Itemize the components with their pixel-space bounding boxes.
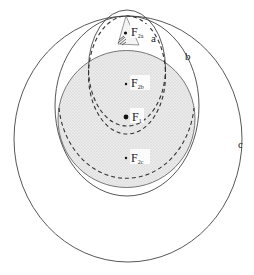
f1-label-sub: 1	[139, 118, 142, 124]
focus-f2c-dot	[125, 157, 127, 159]
focus-f1-dot	[124, 115, 129, 120]
curve-a-label: a	[151, 32, 156, 44]
f2c-label-sub: 2c	[138, 159, 144, 165]
ellipse-diagram: F2a F2b F1 F2c a b c	[0, 0, 254, 275]
curve-c-label: c	[238, 138, 243, 150]
curve-b-label: b	[185, 50, 191, 62]
focus-f2a-dot	[124, 31, 127, 34]
f2a-label-sub: 2a	[138, 33, 144, 39]
focus-f2b-dot	[125, 83, 127, 85]
f2b-label-sub: 2b	[138, 84, 144, 90]
